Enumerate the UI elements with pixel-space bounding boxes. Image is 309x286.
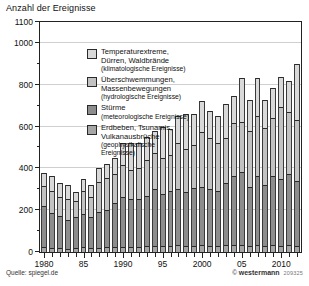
bar-segment-geophysical-2007 bbox=[256, 245, 260, 252]
bar-segment-hydrological-1988 bbox=[105, 178, 109, 209]
legend-label-climatological: Temperaturextreme,Dürren, Waldbrände(kli… bbox=[101, 48, 186, 73]
x-tick-1984 bbox=[76, 253, 77, 257]
bar-segment-geophysical-1990 bbox=[121, 247, 125, 252]
bar-2010 bbox=[278, 77, 284, 252]
x-tick-2009 bbox=[273, 253, 274, 257]
legend-label-geophysical: Erdbeben, Tsunamis,Vulkanausbrüche(geoph… bbox=[101, 124, 172, 157]
bar-segment-climatological-1981 bbox=[50, 176, 54, 191]
bar-segment-geophysical-1995 bbox=[161, 246, 165, 252]
bar-segment-meteorological-1994 bbox=[153, 189, 157, 245]
publisher-credit: © westermann 209325 bbox=[232, 269, 303, 276]
bar-segment-meteorological-1989 bbox=[113, 203, 117, 247]
bar-1981 bbox=[49, 176, 55, 252]
y-tick-label-800: 800 bbox=[19, 80, 33, 90]
legend-item-climatological: Temperaturextreme,Dürren, Waldbrände(kli… bbox=[87, 48, 237, 73]
bar-segment-geophysical-1994 bbox=[153, 246, 157, 252]
bar-segment-meteorological-1997 bbox=[176, 189, 180, 245]
bar-segment-meteorological-2008 bbox=[263, 185, 267, 246]
legend-sublabel-meteorological: (meteorologische Ereignisse) bbox=[101, 113, 189, 121]
publisher-name: westermann bbox=[239, 269, 280, 276]
bar-segment-meteorological-2000 bbox=[200, 187, 204, 246]
bar-segment-hydrological-2012 bbox=[295, 120, 299, 181]
bar-2008 bbox=[262, 100, 268, 252]
x-tick-1980 bbox=[44, 253, 45, 258]
x-tick-2001 bbox=[210, 253, 211, 257]
bar-segment-geophysical-1982 bbox=[58, 248, 62, 252]
bar-segment-geophysical-1981 bbox=[50, 248, 54, 252]
x-tick-label-2000: 2000 bbox=[193, 259, 212, 269]
bar-segment-geophysical-2005 bbox=[240, 245, 244, 252]
x-tick-1986 bbox=[91, 253, 92, 257]
bar-segment-geophysical-1989 bbox=[113, 247, 117, 252]
legend-label-meteorological: Stürme(meteorologische Ereignisse) bbox=[101, 104, 189, 121]
bar-segment-meteorological-1992 bbox=[137, 199, 141, 247]
bar-segment-meteorological-1985 bbox=[82, 214, 86, 247]
legend-sublabel-geophysical: (geophysikalische bbox=[101, 141, 172, 149]
bar-segment-climatological-2005 bbox=[240, 78, 244, 122]
bar-segment-climatological-1988 bbox=[105, 164, 109, 178]
legend-item-hydrological: Überschwemmungen,Massenbewegungen(hydrol… bbox=[87, 76, 237, 101]
legend-swatch-geophysical bbox=[87, 125, 97, 135]
x-tick-1993 bbox=[147, 253, 148, 257]
bar-segment-hydrological-2005 bbox=[240, 122, 244, 171]
legend-swatch-climatological bbox=[87, 49, 97, 59]
legend-swatch-meteorological bbox=[87, 105, 97, 115]
bar-segment-climatological-1985 bbox=[82, 179, 86, 191]
bar-1980 bbox=[41, 173, 47, 252]
bar-2007 bbox=[255, 78, 261, 252]
bar-segment-meteorological-1986 bbox=[89, 217, 93, 248]
bar-segment-hydrological-1987 bbox=[97, 182, 101, 212]
bar-segment-geophysical-1999 bbox=[192, 246, 196, 252]
x-tick-label-2005: 05 bbox=[237, 259, 246, 269]
bar-segment-geophysical-2002 bbox=[216, 246, 220, 252]
bar-segment-hydrological-1993 bbox=[145, 160, 149, 196]
bar-segment-meteorological-1980 bbox=[42, 206, 46, 248]
bar-segment-meteorological-2003 bbox=[224, 183, 228, 246]
bar-segment-hydrological-2006 bbox=[248, 131, 252, 187]
bar-segment-climatological-1982 bbox=[58, 183, 62, 197]
bar-segment-hydrological-1980 bbox=[42, 186, 46, 206]
bar-segment-climatological-2011 bbox=[287, 81, 291, 111]
bar-segment-climatological-1986 bbox=[89, 185, 93, 197]
bar-2012 bbox=[294, 64, 300, 252]
bar-segment-climatological-1984 bbox=[74, 192, 78, 201]
chart-root: Anzahl der Ereignisse 020040060080010001… bbox=[0, 0, 309, 286]
x-tick-1988 bbox=[107, 253, 108, 257]
bar-1988 bbox=[104, 164, 110, 252]
bar-segment-hydrological-1989 bbox=[113, 174, 117, 203]
x-tick-1996 bbox=[171, 253, 172, 257]
bar-segment-hydrological-1991 bbox=[129, 170, 133, 199]
bar-segment-meteorological-2009 bbox=[271, 176, 275, 245]
bar-segment-hydrological-1992 bbox=[137, 168, 141, 199]
chart-title: Anzahl der Ereignisse bbox=[6, 3, 96, 13]
bar-segment-hydrological-2007 bbox=[256, 116, 260, 177]
bar-segment-meteorological-1983 bbox=[66, 220, 70, 249]
bar-segment-geophysical-1993 bbox=[145, 246, 149, 252]
bar-segment-geophysical-2008 bbox=[263, 246, 267, 252]
bar-segment-hydrological-1996 bbox=[169, 155, 173, 192]
bar-segment-hydrological-2008 bbox=[263, 128, 267, 186]
bar-segment-hydrological-2011 bbox=[287, 112, 291, 175]
bar-segment-meteorological-2012 bbox=[295, 181, 299, 246]
x-tick-1997 bbox=[178, 253, 179, 257]
bar-segment-geophysical-2001 bbox=[208, 246, 212, 252]
legend-item-meteorological: Stürme(meteorologische Ereignisse) bbox=[87, 104, 237, 121]
bar-segment-geophysical-2009 bbox=[271, 245, 275, 252]
bar-2009 bbox=[270, 88, 276, 252]
bar-segment-meteorological-1995 bbox=[161, 194, 165, 246]
x-tick-2011 bbox=[289, 253, 290, 257]
legend-swatch-hydrological bbox=[87, 77, 97, 87]
bar-segment-hydrological-1984 bbox=[74, 201, 78, 217]
x-tick-1981 bbox=[52, 253, 53, 257]
legend-label-line2-hydrological: Massenbewegungen bbox=[101, 85, 181, 94]
x-tick-2004 bbox=[234, 253, 235, 257]
bar-segment-geophysical-1980 bbox=[42, 247, 46, 252]
x-tick-2008 bbox=[265, 253, 266, 257]
bar-2011 bbox=[286, 81, 292, 252]
x-tick-1992 bbox=[139, 253, 140, 257]
x-tick-2012 bbox=[297, 253, 298, 257]
bar-1984 bbox=[73, 192, 79, 252]
bar-segment-meteorological-1984 bbox=[74, 217, 78, 248]
bar-segment-geophysical-2012 bbox=[295, 246, 299, 252]
bar-segment-geophysical-2011 bbox=[287, 245, 291, 252]
